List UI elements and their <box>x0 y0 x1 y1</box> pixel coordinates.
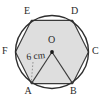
geometry-figure: A B C D E F O 6 cm <box>0 0 104 104</box>
vertex-label-c: C <box>92 46 99 56</box>
vertex-label-d: D <box>71 6 78 16</box>
geometry-canvas <box>0 0 104 104</box>
vertex-label-b: B <box>70 86 77 96</box>
vertex-label-e: E <box>24 6 30 16</box>
vertex-label-a: A <box>25 86 32 96</box>
center-label-o: O <box>48 35 55 45</box>
vertex-label-f: F <box>2 46 8 56</box>
radius-dimension-label: 6 cm <box>26 51 46 62</box>
center-point <box>50 50 54 54</box>
